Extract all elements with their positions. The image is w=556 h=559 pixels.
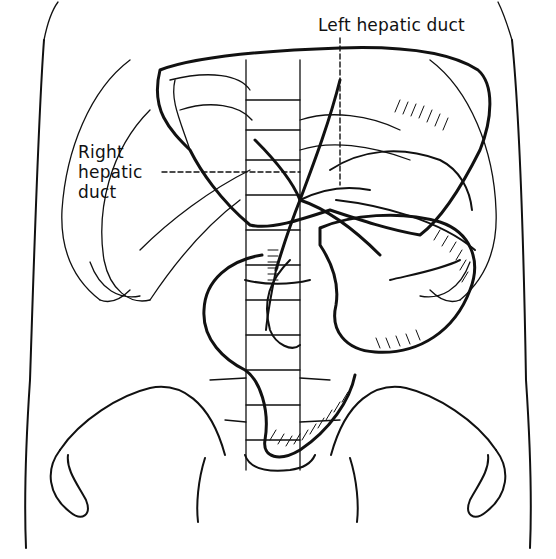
label-left-hepatic-duct: Left hepatic duct: [318, 15, 465, 35]
liver: [157, 48, 490, 235]
pelvis: [51, 387, 506, 522]
stomach: [320, 215, 475, 352]
anatomical-diagram: Left hepatic duct Right hepatic duct: [0, 0, 556, 559]
spine: [210, 60, 340, 470]
body-outline-right: [512, 40, 531, 548]
abdomen-illustration: [0, 0, 556, 559]
label-right-hepatic-duct: Right hepatic duct: [78, 142, 143, 202]
label-right-hepatic-duct-line-3: duct: [78, 182, 143, 202]
duodenum: [204, 255, 355, 457]
label-right-hepatic-duct-line-2: hepatic: [78, 162, 143, 182]
body-outline-left: [25, 40, 44, 548]
label-right-hepatic-duct-line-1: Right: [78, 142, 143, 162]
